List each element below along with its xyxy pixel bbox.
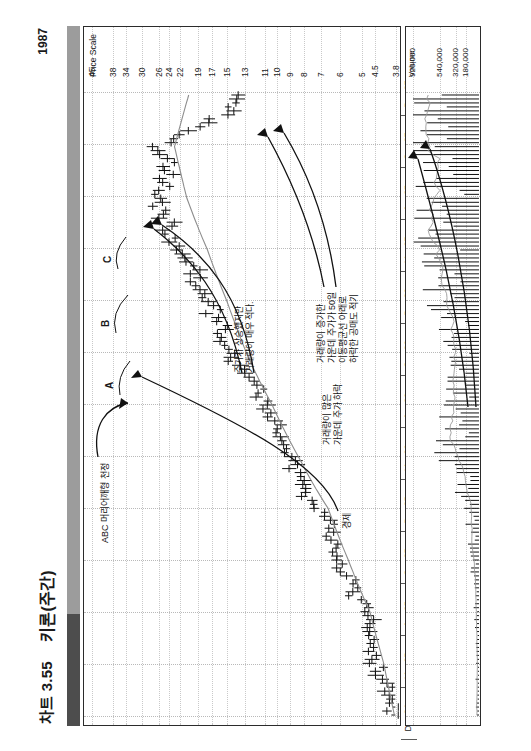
arrowhead (273, 124, 284, 133)
price-tick-label: 10 (271, 67, 281, 76)
price-tick-label: 34 (121, 67, 131, 76)
price-tick-label: 8 (299, 72, 309, 77)
price-tick-label: 30 (136, 67, 146, 76)
price-tick-label: 19 (193, 67, 203, 76)
price-tick-label: 4.5 (370, 65, 380, 77)
date-tick-separator (401, 739, 417, 740)
price-tick-label: 7 (315, 72, 325, 77)
annotation-neckline: 경제 (342, 513, 353, 529)
annotation-head-and-shoulders-top: ABC 머리어깨형 천정 (100, 463, 111, 543)
volume-tick-label: 320,000 (451, 48, 460, 77)
price-tick-label: 24 (164, 67, 174, 76)
price-tick-label: 3.8 (391, 65, 401, 77)
volume-panel: 920,000540,000320,000180,000Volume (405, 26, 481, 726)
annotation-letter-b: B (100, 319, 111, 326)
arrowhead (420, 140, 430, 149)
arrowhead (131, 370, 142, 378)
price-tick-label: 9 (284, 72, 294, 77)
price-tick-label: 38 (107, 67, 117, 76)
price-axis-title: Price Scale (88, 34, 98, 77)
annotation-heavy-volume-decline: 거래량이 많은 가운데 주가 하락 (322, 383, 344, 444)
annotation-letter-c: C (102, 255, 113, 262)
price-tick-label: 5 (357, 72, 367, 77)
volume-tick-label: 180,000 (461, 48, 470, 77)
annotation-letter-a: A (104, 381, 115, 388)
annotation-short-sell-setup: 거래량이 증가한 가운데 주가가 50일 이동평균선 아래로 하락한 공매도 적… (316, 291, 360, 362)
price-tick-label: 22 (175, 67, 185, 76)
price-tick-label: 11 (260, 68, 270, 77)
annotation-lines-canvas (84, 25, 402, 725)
arrowhead (119, 398, 128, 409)
price-tick-label: 13 (239, 67, 249, 76)
volume-tick-label: 540,000 (435, 48, 444, 77)
book-page: 차트 3.55 키론(주간) 1987 45383430262422191715… (0, 0, 531, 751)
rotated-figure: 차트 3.55 키론(주간) 1987 45383430262422191715… (31, 26, 501, 726)
spine-dark-segment (67, 614, 80, 726)
arrowhead (257, 128, 268, 137)
volume-annotation-canvas (406, 25, 482, 725)
arrowhead (151, 216, 162, 225)
price-panel: 45383430262422191715131110987654.53.8Pri… (83, 26, 401, 726)
volume-axis-title: Volume (407, 50, 416, 77)
annotation-price-up-low-volume: 주가가 상승했지만 거래량이 매우 적다. (234, 301, 256, 373)
price-tick-label: 6 (334, 72, 344, 77)
price-tick-label: 17 (206, 67, 216, 76)
chart-number: 차트 3.55 (35, 661, 56, 724)
instrument-name: 키론(주간) (34, 570, 58, 642)
price-tick-label: 26 (154, 67, 164, 76)
figure-header: 차트 3.55 키론(주간) 1987 (31, 26, 65, 726)
spine-light-segment (67, 26, 80, 614)
year-label: 1987 (36, 28, 50, 55)
arrowhead (408, 150, 418, 159)
price-tick-label: 15 (222, 67, 232, 76)
page-spine-band (67, 26, 80, 726)
